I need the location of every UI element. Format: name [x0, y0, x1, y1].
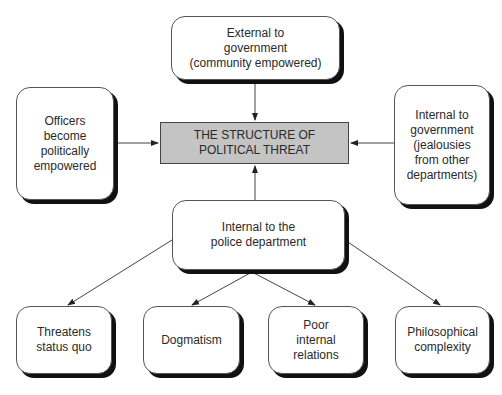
node-label: External to government (community empowe… [189, 26, 321, 71]
node-label: Internal to the police department [211, 220, 306, 250]
node-label: Poor internal relations [293, 318, 338, 363]
node-officers-politically-empowered: Officers become politically empowered [16, 87, 114, 200]
node-external-to-government: External to government (community empowe… [171, 16, 340, 80]
node-internal-to-police-department: Internal to the police department [172, 200, 345, 270]
node-label: Philosophical complexity [407, 325, 478, 355]
node-dogmatism: Dogmatism [143, 306, 240, 374]
node-internal-to-government: Internal to government (jealousies from … [394, 85, 490, 205]
node-threatens-status-quo: Threatens status quo [16, 306, 112, 374]
central-concept-box: THE STRUCTURE OF POLITICAL THREAT [160, 122, 349, 164]
node-label: Dogmatism [161, 333, 222, 348]
node-philosophical-complexity: Philosophical complexity [395, 306, 490, 374]
node-label: Threatens status quo [36, 325, 91, 355]
node-label: Officers become politically empowered [34, 114, 97, 174]
node-poor-internal-relations: Poor internal relations [268, 306, 364, 374]
node-label: Internal to government (jealousies from … [407, 108, 478, 183]
central-concept-label: THE STRUCTURE OF POLITICAL THREAT [194, 128, 315, 158]
